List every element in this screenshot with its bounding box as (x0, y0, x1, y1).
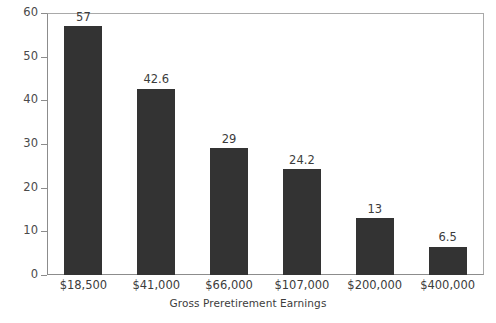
bar-value-label: 13 (334, 204, 416, 216)
y-axis-tick (41, 144, 47, 145)
y-axis-tick-label: 10 (4, 226, 38, 238)
bar-slot: 29 (210, 13, 248, 275)
y-axis-tick-label: 30 (4, 138, 38, 150)
x-axis-title: Gross Preretirement Earnings (0, 297, 496, 309)
y-axis-tick-label: 60 (4, 7, 38, 19)
bar-chart: 0102030405060 5742.62924.2136.5 $18,500$… (0, 0, 496, 323)
bar[interactable] (137, 89, 175, 275)
bar-value-label: 6.5 (407, 232, 489, 244)
bar[interactable] (283, 169, 321, 275)
y-axis-tick (41, 188, 47, 189)
bar-value-label: 24.2 (261, 155, 343, 167)
y-axis-tick (41, 100, 47, 101)
y-axis-tick (41, 231, 47, 232)
bar-slot: 57 (64, 13, 102, 275)
bar[interactable] (210, 148, 248, 275)
bar-slot: 24.2 (283, 13, 321, 275)
bars-layer: 5742.62924.2136.5 (48, 13, 484, 275)
bar[interactable] (356, 218, 394, 275)
y-axis-tick (41, 57, 47, 58)
bar-slot: 13 (356, 13, 394, 275)
bar[interactable] (429, 247, 467, 275)
bar-value-label: 57 (42, 12, 124, 24)
bar-slot: 42.6 (137, 13, 175, 275)
y-axis-tick-label: 50 (4, 51, 38, 63)
bar[interactable] (64, 26, 102, 275)
y-axis-tick-label: 0 (4, 269, 38, 281)
x-axis-tick-label: $400,000 (403, 279, 493, 292)
y-axis-tick (41, 275, 47, 276)
y-axis-tick-label: 40 (4, 95, 38, 107)
bar-value-label: 29 (188, 134, 270, 146)
y-axis-tick-label: 20 (4, 182, 38, 194)
bar-value-label: 42.6 (115, 74, 197, 86)
bar-slot: 6.5 (429, 13, 467, 275)
